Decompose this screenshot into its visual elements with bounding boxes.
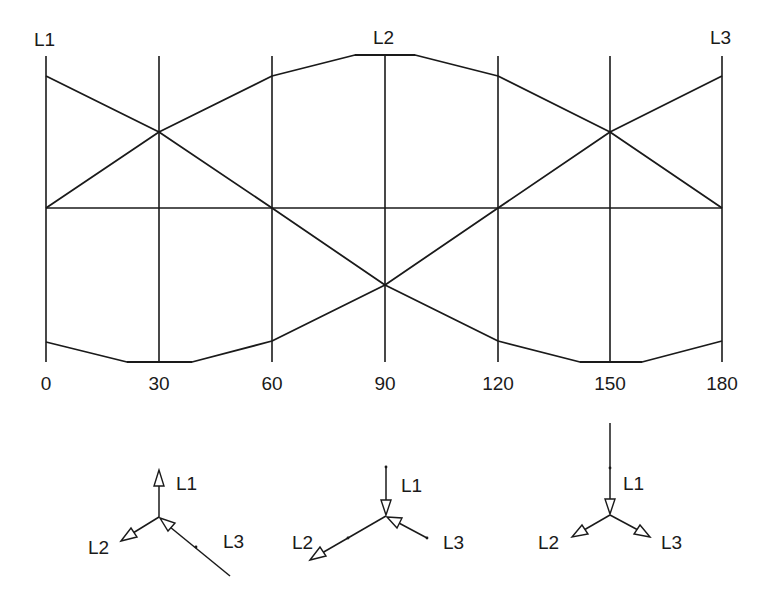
phasor-2-l3-arrow-icon [387, 517, 402, 528]
phasor-3-label-l2: L2 [538, 532, 559, 553]
phasor-3-label-l1: L1 [623, 473, 644, 494]
phasor-1-l1-arrow-icon [154, 470, 164, 486]
phasor-2-l3-line [397, 522, 427, 538]
phasor-diagram-0deg: L1 L2 L3 [88, 470, 244, 576]
phasor-3-l2-arrow-icon [572, 525, 588, 537]
phasor-3-label-l3: L3 [661, 532, 682, 553]
phasor-3-l3-line [610, 515, 638, 530]
tick-label-180: 180 [706, 373, 738, 394]
phasor-1-l3-line [170, 527, 230, 576]
phasor-1-l2-line [133, 517, 159, 533]
tick-label-120: 120 [482, 373, 514, 394]
phasor-2-l1-tick [385, 466, 388, 469]
phasor-3-l1-arrow-icon [605, 499, 615, 514]
label-top-l3: L3 [710, 27, 731, 48]
phasor-1-l3-tick [195, 546, 198, 549]
phasor-3-l2-line [584, 515, 610, 530]
tick-label-150: 150 [594, 373, 626, 394]
tick-label-60: 60 [261, 373, 282, 394]
tick-label-0: 0 [41, 373, 52, 394]
label-top-l2: L2 [373, 27, 394, 48]
phasor-2-label-l1: L1 [401, 475, 422, 496]
label-top-l1: L1 [34, 29, 55, 50]
phasor-2-l2-line [322, 516, 386, 553]
vertical-grid-lines [46, 56, 722, 362]
phasor-1-label-l1: L1 [176, 473, 197, 494]
phasor-2-l1-arrow-icon [381, 500, 391, 515]
phasor-2-label-l3: L3 [443, 532, 464, 553]
phasor-diagram-150deg: L1 L2 L3 [538, 423, 682, 553]
waveform-l2 [46, 55, 722, 208]
x-axis-tick-labels: 0 30 60 90 120 150 180 [41, 373, 738, 394]
waveform-l1 [46, 76, 722, 362]
tick-label-30: 30 [148, 373, 169, 394]
phasor-1-label-l3: L3 [223, 531, 244, 552]
phasor-1-l2-arrow-icon [121, 528, 137, 541]
waveform-l3 [46, 76, 722, 362]
three-phase-diagram: L1 L2 L3 0 30 60 90 120 150 180 [0, 0, 775, 607]
phasor-3-l3-arrow-icon [634, 525, 650, 537]
phasor-1-label-l2: L2 [88, 537, 109, 558]
tick-label-90: 90 [374, 373, 395, 394]
phasor-2-label-l2: L2 [292, 532, 313, 553]
phasor-3-l1-tick [609, 467, 612, 470]
phasor-diagram-90deg: L1 L2 L3 [292, 466, 464, 560]
phasor-2-l3-tick [426, 537, 429, 540]
phasor-2-l2-tick [347, 537, 350, 540]
